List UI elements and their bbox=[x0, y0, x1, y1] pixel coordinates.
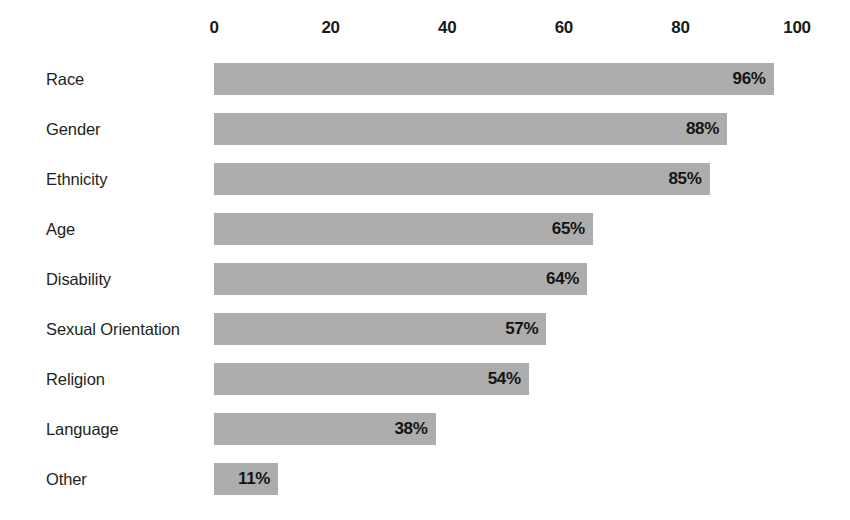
bar-chart: 020406080100 Race96%Gender88%Ethnicity85… bbox=[0, 0, 850, 520]
category-label: Other bbox=[46, 463, 87, 495]
bar-value-label: 57% bbox=[505, 313, 538, 345]
bar-value-label: 38% bbox=[394, 413, 427, 445]
bar: 88% bbox=[214, 113, 727, 145]
category-label: Race bbox=[46, 63, 84, 95]
chart-row: Age65% bbox=[0, 213, 850, 245]
bar-value-label: 96% bbox=[733, 63, 766, 95]
bar-value-label: 88% bbox=[686, 113, 719, 145]
bar: 38% bbox=[214, 413, 436, 445]
chart-plot-area: Race96%Gender88%Ethnicity85%Age65%Disabi… bbox=[0, 0, 850, 520]
bar-value-label: 64% bbox=[546, 263, 579, 295]
bar-value-label: 65% bbox=[552, 213, 585, 245]
bar: 85% bbox=[214, 163, 710, 195]
category-label: Language bbox=[46, 413, 119, 445]
chart-row: Race96% bbox=[0, 63, 850, 95]
bar-value-label: 85% bbox=[668, 163, 701, 195]
bar: 54% bbox=[214, 363, 529, 395]
category-label: Gender bbox=[46, 113, 100, 145]
chart-row: Disability64% bbox=[0, 263, 850, 295]
chart-row: Sexual Orientation57% bbox=[0, 313, 850, 345]
chart-row: Gender88% bbox=[0, 113, 850, 145]
category-label: Religion bbox=[46, 363, 105, 395]
bar: 11% bbox=[214, 463, 278, 495]
bar: 64% bbox=[214, 263, 587, 295]
bar: 57% bbox=[214, 313, 546, 345]
chart-row: Other11% bbox=[0, 463, 850, 495]
category-label: Ethnicity bbox=[46, 163, 107, 195]
bar-value-label: 11% bbox=[238, 463, 270, 495]
chart-row: Ethnicity85% bbox=[0, 163, 850, 195]
bar-value-label: 54% bbox=[488, 363, 521, 395]
category-label: Sexual Orientation bbox=[46, 313, 180, 345]
category-label: Disability bbox=[46, 263, 111, 295]
chart-row: Religion54% bbox=[0, 363, 850, 395]
category-label: Age bbox=[46, 213, 75, 245]
bar: 96% bbox=[214, 63, 774, 95]
bar: 65% bbox=[214, 213, 593, 245]
chart-row: Language38% bbox=[0, 413, 850, 445]
